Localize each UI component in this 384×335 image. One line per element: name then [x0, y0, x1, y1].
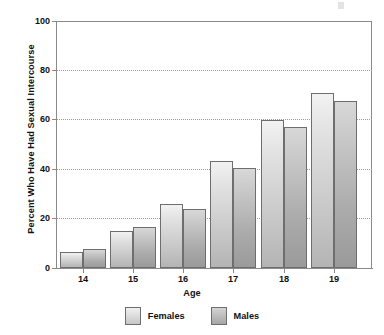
x-axis-title: Age: [0, 288, 384, 298]
bar-males-age-14: [83, 249, 106, 268]
bar-females-age-14: [60, 252, 83, 268]
x-tick-mark-19: [334, 269, 335, 273]
x-tick-mark-16: [183, 269, 184, 273]
x-tick-mark-17: [233, 269, 234, 273]
chart-legend: Females Males: [0, 307, 384, 325]
x-tick-label-18: 18: [264, 274, 304, 284]
x-tick-label-19: 19: [314, 274, 354, 284]
bar-females-age-18: [261, 120, 284, 268]
bar-females-age-17: [210, 161, 233, 268]
x-tick-label-14: 14: [63, 274, 103, 284]
x-tick-mark-18: [284, 269, 285, 273]
bar-males-age-18: [284, 127, 307, 268]
bar-males-age-16: [183, 209, 206, 268]
legend-item-males: Males: [211, 307, 260, 325]
x-tick-label-15: 15: [113, 274, 153, 284]
legend-label-females: Females: [148, 311, 185, 321]
bar-females-age-16: [160, 204, 183, 268]
legend-swatch-females-icon: [125, 307, 141, 325]
bar-females-age-15: [110, 231, 133, 268]
legend-label-males: Males: [234, 311, 260, 321]
bar-males-age-15: [133, 227, 156, 268]
x-tick-mark-14: [83, 269, 84, 273]
legend-item-females: Females: [125, 307, 185, 325]
x-tick-mark-15: [133, 269, 134, 273]
legend-swatch-males-icon: [211, 307, 227, 325]
x-tick-label-16: 16: [163, 274, 203, 284]
bar-females-age-19: [311, 93, 334, 268]
bar-males-age-19: [334, 101, 357, 268]
x-tick-label-17: 17: [213, 274, 253, 284]
bars-layer: [0, 0, 384, 335]
bar-chart: Percent Who Have Had Sexual Intercourse …: [0, 0, 384, 335]
bar-males-age-17: [233, 168, 256, 268]
